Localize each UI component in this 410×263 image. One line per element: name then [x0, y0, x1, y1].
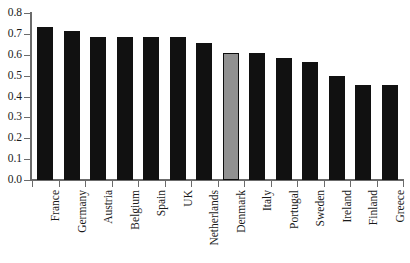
bar [143, 37, 159, 180]
x-axis-tick-label: Ireland [342, 190, 354, 223]
x-axis-tick-label: Greece [395, 190, 407, 223]
x-axis-tick-label: Italy [262, 190, 274, 211]
bar [64, 31, 80, 180]
x-axis-tick-label: Sweden [315, 190, 327, 226]
bar [355, 85, 371, 180]
x-axis-tick-label: Germany [77, 190, 89, 233]
bar [302, 62, 318, 180]
bar-chart: 0.00.10.20.30.40.50.60.70.8 FranceGerman… [0, 0, 410, 263]
bars-layer [0, 0, 410, 263]
x-axis-tick-label: Austria [103, 190, 115, 224]
x-axis-tick-label: Portugal [289, 190, 301, 229]
bar [170, 37, 186, 180]
x-axis-tick-label: UK [183, 190, 195, 207]
bar [37, 27, 53, 180]
bar [382, 85, 398, 180]
bar [329, 76, 345, 180]
x-axis-tick-label: Denmark [236, 190, 248, 233]
bar [276, 58, 292, 180]
x-axis-tick-label: Spain [156, 190, 168, 216]
bar [249, 53, 265, 180]
bar [90, 37, 106, 180]
bar [117, 37, 133, 180]
x-axis-tick-label: Belgium [130, 190, 142, 230]
x-axis-tick-label: Netherlands [209, 190, 221, 246]
bar-highlighted [223, 53, 239, 180]
x-axis-tick-label: Finland [368, 190, 380, 225]
bar [196, 43, 212, 180]
x-axis-tick-label: France [50, 190, 62, 221]
